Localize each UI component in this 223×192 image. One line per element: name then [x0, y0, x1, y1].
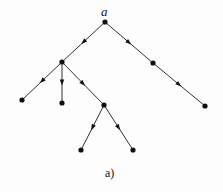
node-d — [19, 97, 24, 102]
tree-graph — [0, 0, 223, 192]
node-a — [102, 19, 107, 24]
node-c — [150, 60, 155, 65]
node-h — [78, 147, 83, 152]
arrow-icon — [91, 124, 96, 130]
node-e — [59, 100, 64, 105]
root-node-label: a — [101, 4, 108, 20]
node-f — [101, 102, 106, 107]
node-i — [130, 147, 135, 152]
arrow-icon — [115, 124, 120, 130]
arrow-icon — [60, 80, 64, 86]
node-b — [59, 59, 64, 64]
tree-diagram: a a) — [0, 0, 223, 192]
figure-caption: a) — [105, 166, 114, 181]
node-g — [202, 103, 207, 108]
